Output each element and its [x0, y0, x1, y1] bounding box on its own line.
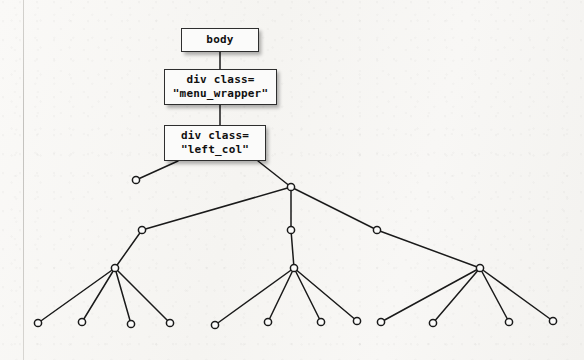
tree-node-circle[interactable] — [111, 264, 118, 271]
tree-node-circle[interactable] — [264, 318, 271, 325]
tree-node-menu_wrapper[interactable]: div class="menu_wrapper" — [164, 69, 277, 105]
tree-edge — [294, 268, 321, 322]
tree-node-circle[interactable] — [377, 318, 384, 325]
diagram-canvas: bodydiv class="menu_wrapper"div class="l… — [0, 0, 584, 360]
tree-node-circle[interactable] — [549, 317, 556, 324]
tree-node-circle[interactable] — [317, 318, 324, 325]
node-label-line: div class= — [181, 129, 249, 143]
tree-node-circle[interactable] — [476, 264, 483, 271]
node-label-line: body — [206, 33, 233, 47]
tree-edge — [142, 187, 291, 230]
tree-node-circle[interactable] — [78, 318, 85, 325]
tree-node-circle[interactable] — [138, 226, 145, 233]
tree-node-circle[interactable] — [34, 319, 41, 326]
tree-node-circle[interactable] — [127, 320, 134, 327]
tree-node-circle[interactable] — [166, 319, 173, 326]
tree-edge — [480, 268, 509, 322]
tree-edge — [258, 161, 291, 187]
tree-node-left_col[interactable]: div class="left_col" — [164, 125, 266, 161]
tree-node-circle[interactable] — [505, 318, 512, 325]
tree-edge — [433, 268, 480, 323]
node-label-line: "menu_wrapper" — [173, 87, 269, 101]
tree-edge — [215, 268, 294, 325]
node-label-line: "left_col" — [181, 143, 249, 157]
tree-node-circle[interactable] — [211, 321, 218, 328]
tree-edge — [377, 230, 480, 268]
tree-node-circle[interactable] — [132, 176, 139, 183]
tree-node-circle[interactable] — [429, 319, 436, 326]
tree-edge — [136, 161, 178, 180]
tree-node-circle[interactable] — [287, 183, 294, 190]
tree-node-circle[interactable] — [353, 317, 360, 324]
tree-edge — [291, 230, 294, 268]
tree-edge — [82, 268, 115, 322]
tree-edges-layer — [0, 0, 584, 360]
tree-node-body[interactable]: body — [181, 28, 259, 52]
tree-edge — [268, 268, 294, 322]
tree-node-circle[interactable] — [373, 226, 380, 233]
tree-edge — [480, 268, 553, 321]
tree-node-circle[interactable] — [290, 264, 297, 271]
tree-edge — [381, 268, 480, 322]
tree-node-circle[interactable] — [287, 226, 294, 233]
tree-edge — [115, 230, 142, 268]
tree-edge — [291, 187, 377, 230]
node-label-line: div class= — [186, 73, 254, 87]
tree-edge — [294, 268, 357, 321]
tree-edge — [38, 268, 115, 323]
